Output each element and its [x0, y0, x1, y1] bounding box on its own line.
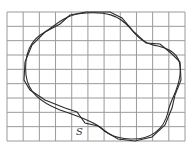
region-label-s: S [76, 126, 83, 137]
area-diagram: S [0, 0, 194, 149]
polygonal-boundary-curve [24, 12, 181, 141]
smooth-boundary-curve [26, 13, 181, 139]
grid [7, 12, 185, 141]
